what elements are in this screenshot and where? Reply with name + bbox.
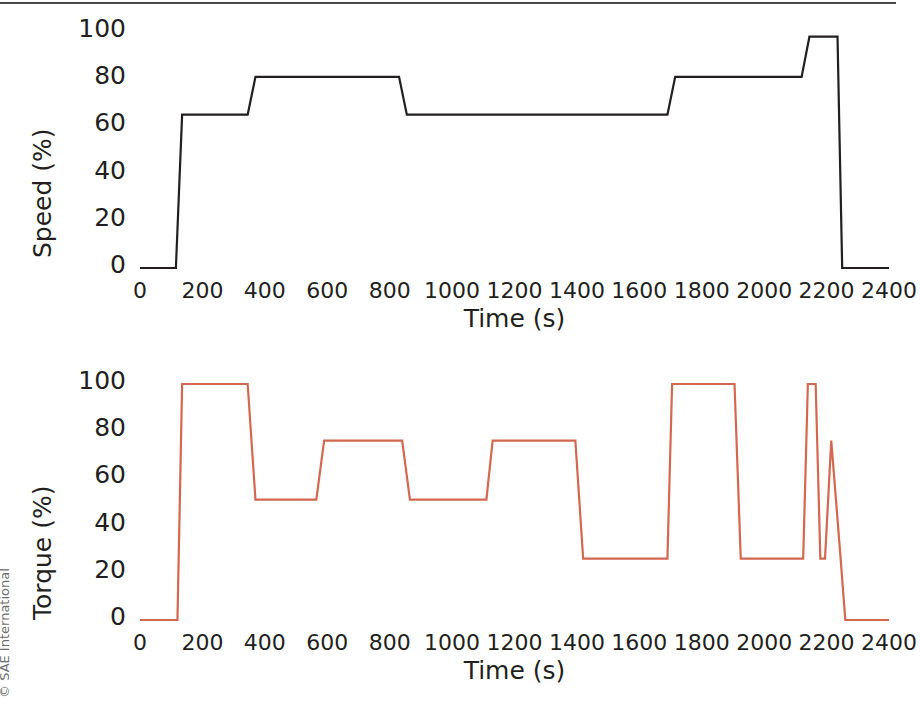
y-tick-label: 100: [78, 16, 126, 41]
y-tick-label: 80: [94, 415, 126, 440]
y-tick-label: 60: [94, 110, 126, 135]
series-line: [140, 384, 889, 620]
chart-panel-torque: Torque (%) Time (s) 02040608010002004006…: [0, 352, 896, 701]
x-tick-label: 2400: [849, 280, 921, 302]
chart-panel-speed: Speed (%) Time (s) 020406080100020040060…: [0, 6, 896, 351]
copyright-notice: © SAE International: [0, 568, 12, 698]
y-tick-label: 0: [110, 252, 126, 277]
top-divider-rule: [0, 2, 896, 4]
y-tick-label: 0: [110, 604, 126, 629]
x-tick-label: 2400: [849, 632, 921, 654]
y-tick-label: 20: [94, 557, 126, 582]
y-tick-label: 40: [94, 510, 126, 535]
series-line: [140, 37, 889, 268]
y-tick-label: 80: [94, 63, 126, 88]
y-tick-label: 100: [78, 368, 126, 393]
y-tick-label: 40: [94, 158, 126, 183]
y-tick-label: 60: [94, 462, 126, 487]
y-tick-label: 20: [94, 205, 126, 230]
